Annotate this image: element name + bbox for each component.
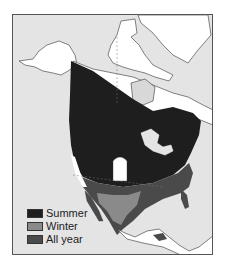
map-legend: Summer Winter All year: [27, 207, 88, 246]
central-america: [117, 229, 213, 255]
map-frame: Summer Winter All year: [12, 14, 213, 255]
plains-gap: [113, 157, 127, 181]
legend-item-all-year: All year: [27, 233, 88, 245]
legend-item-summer: Summer: [27, 207, 88, 219]
winter-swatch: [27, 222, 43, 231]
greenland-landmass: [138, 15, 211, 63]
legend-label: Winter: [46, 220, 78, 232]
legend-label: Summer: [46, 207, 88, 219]
legend-label: All year: [46, 233, 83, 245]
all-year-swatch: [27, 235, 43, 244]
florida: [181, 189, 189, 209]
summer-swatch: [27, 209, 43, 218]
alaska-landmass: [19, 41, 77, 75]
legend-item-winter: Winter: [27, 220, 88, 232]
